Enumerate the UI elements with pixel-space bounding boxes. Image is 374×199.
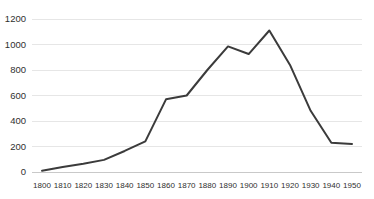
y-tick-label: 800 xyxy=(10,64,26,75)
x-tick-label: 1820 xyxy=(74,181,92,190)
y-tick-label: 0 xyxy=(21,166,26,177)
y-axis-tick-labels: 020040060080010001200 xyxy=(5,13,26,177)
y-tick-label: 1200 xyxy=(5,13,26,24)
x-tick-label: 1880 xyxy=(198,181,216,190)
x-tick-label: 1890 xyxy=(219,181,237,190)
gridlines-group xyxy=(32,19,362,172)
y-tick-label: 600 xyxy=(10,90,26,101)
x-tick-label: 1920 xyxy=(281,181,299,190)
x-tick-label: 1860 xyxy=(157,181,175,190)
series-line-1 xyxy=(42,30,352,170)
x-tick-label: 1800 xyxy=(33,181,51,190)
chart-canvas: 020040060080010001200 180018101820183018… xyxy=(0,0,374,199)
series-group xyxy=(42,30,352,170)
x-axis-tick-labels: 1800181018201830184018501860187018801890… xyxy=(33,181,361,190)
x-tick-label: 1830 xyxy=(95,181,113,190)
x-tick-label: 1810 xyxy=(54,181,72,190)
y-tick-label: 200 xyxy=(10,141,26,152)
x-tick-label: 1840 xyxy=(116,181,134,190)
x-tick-label: 1900 xyxy=(240,181,258,190)
y-tick-label: 1000 xyxy=(5,39,26,50)
y-tick-label: 400 xyxy=(10,115,26,126)
x-tick-label: 1870 xyxy=(178,181,196,190)
x-tick-label: 1950 xyxy=(343,181,361,190)
x-tick-label: 1930 xyxy=(302,181,320,190)
line-chart: 020040060080010001200 180018101820183018… xyxy=(0,0,374,199)
x-tick-label: 1910 xyxy=(260,181,278,190)
x-tick-label: 1850 xyxy=(136,181,154,190)
x-tick-label: 1940 xyxy=(322,181,340,190)
